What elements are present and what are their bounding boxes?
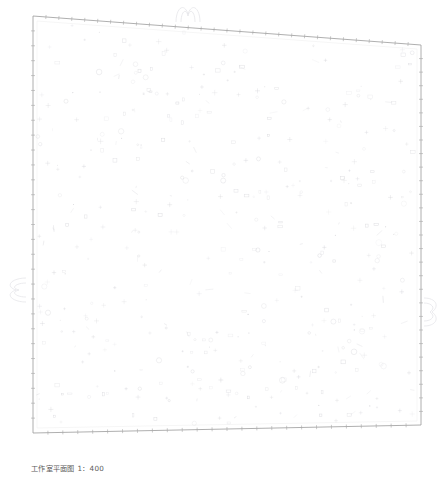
site-outline — [33, 16, 421, 433]
inner-outline — [37, 21, 417, 428]
tree-symbol-right — [424, 298, 436, 326]
tree-symbol-left — [10, 278, 26, 302]
edge-tick-marks — [31, 15, 423, 435]
floor-plan-drawing — [0, 0, 440, 498]
tree-symbol-top — [176, 8, 200, 22]
drawing-sheet: 工作室平面图 1：400 — [0, 0, 440, 498]
drawing-caption: 工作室平面图 1：400 — [31, 462, 104, 475]
interior-furniture-symbols — [36, 24, 415, 425]
